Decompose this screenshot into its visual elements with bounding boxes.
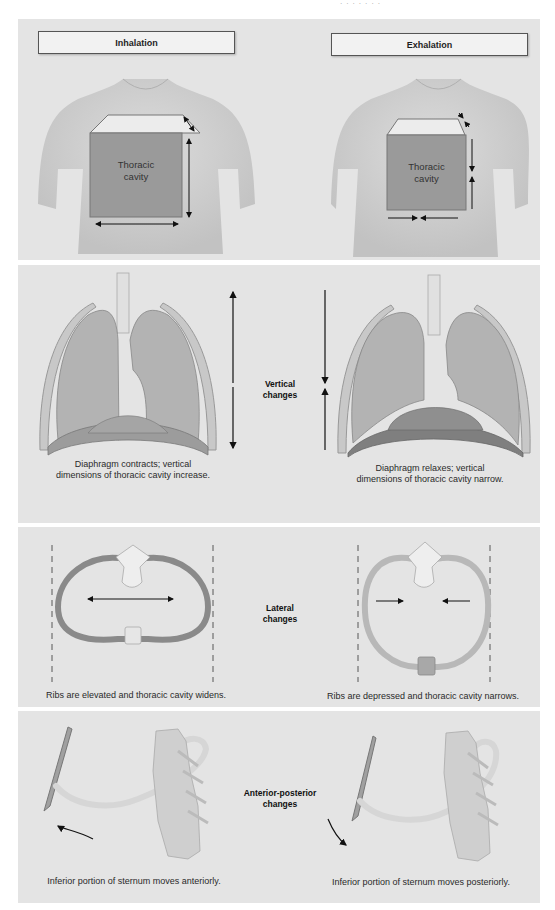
label-line: Anterior-posterior (228, 788, 332, 799)
ap-left-caption: Inferior portion of sternum moves anteri… (24, 876, 244, 887)
panel-anterior-posterior-changes: Anterior-posterior changes Inferior port… (18, 711, 540, 903)
box-label-line: Thoracic (387, 161, 466, 173)
panel-lateral-changes: Lateral changes Ribs are elevated and th… (18, 527, 540, 707)
box-label-line: Thoracic (90, 159, 182, 171)
sternum-anterior-arrow (58, 826, 93, 839)
label-line: Vertical (250, 379, 310, 390)
caption-line: Diaphragm contracts; vertical (38, 459, 228, 470)
lateral-right-caption: Ribs are depressed and thoracic cavity n… (308, 691, 538, 702)
exhalation-rib-ring (365, 542, 488, 675)
lateral-changes-label: Lateral changes (250, 603, 310, 625)
inhalation-box-label: Thoracic cavity (90, 159, 182, 183)
inhalation-rib-ring (58, 545, 208, 644)
sternum-posterior-arrow (328, 819, 346, 845)
label-line: changes (228, 799, 332, 810)
label-line: Lateral (250, 603, 310, 614)
label-line: changes (250, 390, 310, 401)
lateral-left-caption: Ribs are elevated and thoracic cavity wi… (26, 690, 246, 701)
vertical-right-caption: Diaphragm relaxes; vertical dimensions o… (330, 463, 530, 485)
panel-thoracic-dimensions: Inhalation Exhalation (18, 19, 540, 260)
exhalation-lungs (338, 275, 530, 457)
ap-right-caption: Inferior portion of sternum moves poster… (306, 877, 536, 888)
exhalation-sternum-rib (328, 731, 498, 861)
inhalation-sternum-rib (44, 727, 208, 859)
anterior-posterior-changes-label: Anterior-posterior changes (228, 788, 332, 810)
vertical-left-caption: Diaphragm contracts; vertical dimensions… (38, 459, 228, 481)
inhalation-lungs (40, 273, 216, 455)
exhalation-box-label: Thoracic cavity (387, 161, 466, 185)
box-label-line: cavity (387, 173, 466, 185)
label-line: changes (250, 614, 310, 625)
box-label-line: cavity (90, 171, 182, 183)
panel-vertical-changes: Vertical changes Diaphragm contracts; ve… (18, 265, 540, 523)
caption-line: dimensions of thoracic cavity increase. (38, 470, 228, 481)
caption-line: Diaphragm relaxes; vertical (330, 463, 530, 474)
caption-line: dimensions of thoracic cavity narrow. (330, 474, 530, 485)
vertical-changes-label: Vertical changes (250, 379, 310, 401)
torso-illustrations (18, 19, 540, 260)
cropped-header-text: · · · · · · · (340, 0, 381, 7)
